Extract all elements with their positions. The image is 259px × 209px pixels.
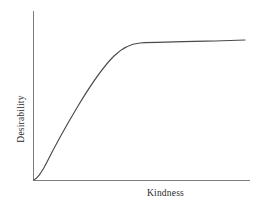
chart-figure: Desirability Kindness (0, 0, 259, 209)
plot-area (0, 0, 259, 209)
diminishing-returns-curve (34, 40, 245, 180)
x-axis-label: Kindness (0, 189, 259, 199)
y-axis-label: Desirability (17, 0, 31, 209)
